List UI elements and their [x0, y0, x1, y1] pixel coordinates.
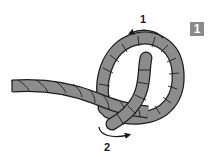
arrow-2-label: 2: [104, 141, 110, 153]
knot-diagram: [0, 0, 217, 157]
step-number-badge: 1: [190, 22, 204, 36]
arrow-1-label: 1: [140, 13, 146, 25]
